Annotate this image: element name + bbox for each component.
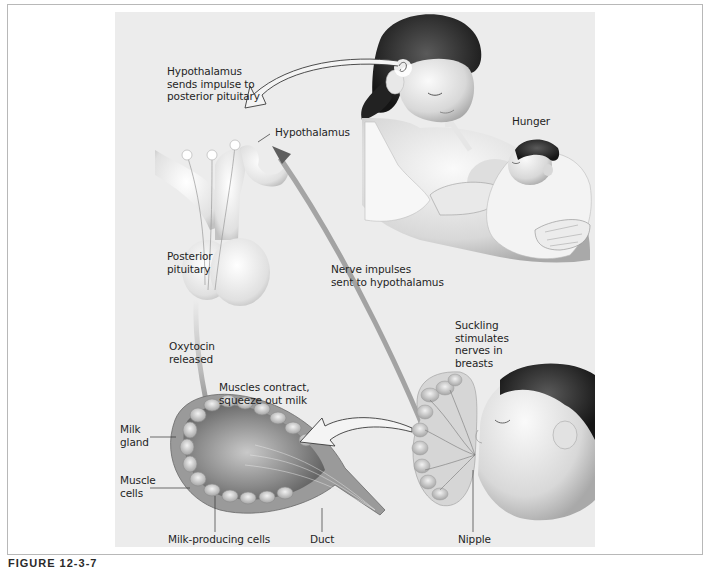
mother-illustration <box>361 14 591 262</box>
label-muscles-contract: Muscles contract, squeeze out milk <box>219 381 309 406</box>
label-hypothalamus: Hypothalamus <box>275 126 350 139</box>
label-milk-producing-cells: Milk-producing cells <box>168 533 270 546</box>
label-nipple: Nipple <box>458 533 491 546</box>
hypothalamus-leader <box>258 134 270 142</box>
label-hypothalamus-sends-impulse: Hypothalamus sends impulse to posterior … <box>167 65 260 103</box>
label-duct: Duct <box>310 533 334 546</box>
pituitary-illustration <box>155 140 289 306</box>
label-nerve-impulses: Nerve impulses sent to hypothalamus <box>331 263 444 288</box>
label-hunger: Hunger <box>512 115 550 128</box>
figure-caption: FIGURE 12-3-7 <box>8 557 97 569</box>
label-milk-gland: Milk gland <box>120 423 149 448</box>
label-oxytocin-released: Oxytocin released <box>169 340 215 365</box>
breast-to-gland-arrow <box>300 418 412 446</box>
suckling-infant-illustration <box>412 364 595 532</box>
label-muscle-cells: Muscle cells <box>120 474 156 499</box>
milk-gland-illustration <box>150 394 385 532</box>
label-posterior-pituitary: Posterior pituitary <box>167 250 213 275</box>
label-suckling-stimulates: Suckling stimulates nerves in breasts <box>455 319 509 369</box>
